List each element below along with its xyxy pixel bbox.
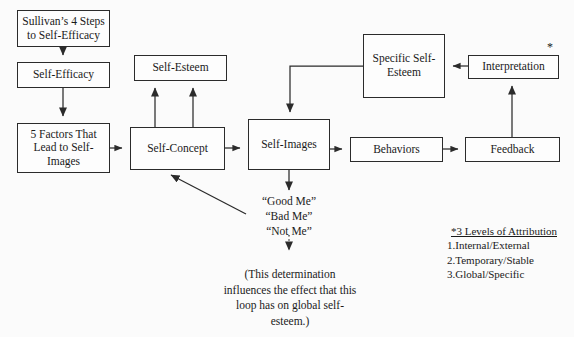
legend-item-2: 2.Temporary/Stable <box>434 253 574 267</box>
node-five-factors[interactable]: 5 Factors That Lead to Self-Images <box>17 123 110 173</box>
node-self-images[interactable]: Self-Images <box>248 119 330 170</box>
node-behaviors[interactable]: Behaviors <box>350 137 443 162</box>
node-self-efficacy[interactable]: Self-Efficacy <box>17 62 110 88</box>
node-self-concept[interactable]: Self-Concept <box>130 127 225 170</box>
attribution-legend: *3 Levels of Attribution 1.Internal/Exte… <box>434 224 574 281</box>
legend-item-1: 1.Internal/External <box>434 238 574 252</box>
arrow-specific-esteem-to-images <box>290 66 363 112</box>
node-specific-self-esteem[interactable]: Specific Self-Esteem <box>363 34 445 98</box>
legend-item-3: 3.Global/Specific <box>434 267 574 281</box>
node-interpretation[interactable]: Interpretation <box>468 55 559 79</box>
node-self-esteem[interactable]: Self-Esteem <box>134 55 227 81</box>
determination-note: (This determination influences the effec… <box>220 267 360 329</box>
legend-heading: *3 Levels of Attribution <box>434 224 574 238</box>
node-feedback[interactable]: Feedback <box>465 137 560 162</box>
node-sullivan-steps[interactable]: Sullivan’s 4 Steps to Self-Efficacy <box>17 10 110 47</box>
asterisk-marker: * <box>547 41 553 53</box>
diagram-canvas: Sullivan’s 4 Steps to Self-Efficacy Self… <box>0 0 574 337</box>
me-labels-text: “Good Me” “Bad Me” “Not Me” <box>234 194 344 240</box>
